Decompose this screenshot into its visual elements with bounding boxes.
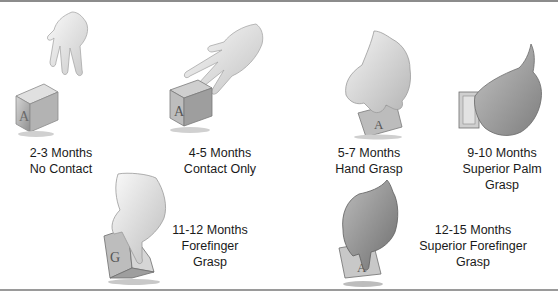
bottom-rule: [0, 289, 558, 291]
caption-stage-5-7: 5-7 Months Hand Grasp: [333, 145, 405, 177]
caption-stage-12-15: 12-15 Months Superior Forefinger Grasp: [418, 222, 528, 270]
caption-age: 9-10 Months: [457, 145, 547, 161]
svg-text:G: G: [110, 250, 120, 265]
illustration-hand-grasp: A: [330, 25, 430, 140]
caption-label: Contact Only: [182, 161, 258, 177]
caption-stage-11-12: 11-12 Months Forefinger Grasp: [170, 222, 250, 270]
caption-label: No Contact: [26, 161, 96, 177]
caption-age: 11-12 Months: [170, 222, 250, 238]
hand-icon: [346, 31, 411, 113]
caption-age: 4-5 Months: [182, 145, 258, 161]
caption-label: Superior Forefinger: [418, 238, 528, 254]
caption-label: Superior Palm: [457, 161, 547, 177]
illustration-superior-forefinger-grasp: A: [335, 178, 405, 288]
caption-label: Hand Grasp: [333, 161, 405, 177]
caption-age: 12-15 Months: [418, 222, 528, 238]
svg-text:A: A: [174, 104, 185, 119]
illustration-hand-no-contact: A: [0, 0, 120, 140]
caption-label: Grasp: [170, 254, 250, 270]
caption-label: Grasp: [418, 254, 528, 270]
hand-icon: [474, 44, 541, 135]
caption-age: 5-7 Months: [333, 145, 405, 161]
caption-age: 2-3 Months: [26, 145, 96, 161]
caption-label: Grasp: [457, 177, 547, 193]
hand-icon: [47, 12, 87, 76]
letter-block-icon: A: [170, 80, 212, 133]
caption-stage-9-10: 9-10 Months Superior Palm Grasp: [457, 145, 547, 193]
letter-block-icon: A: [16, 84, 58, 137]
illustration-superior-palm-grasp: [455, 40, 555, 140]
illustration-hand-contact-only: A: [160, 0, 280, 140]
svg-text:A: A: [19, 109, 30, 124]
caption-label: Forefinger: [170, 238, 250, 254]
svg-text:A: A: [374, 117, 384, 132]
caption-stage-4-5: 4-5 Months Contact Only: [182, 145, 258, 177]
illustration-forefinger-grasp: G: [98, 172, 178, 287]
caption-stage-2-3: 2-3 Months No Contact: [26, 145, 96, 177]
